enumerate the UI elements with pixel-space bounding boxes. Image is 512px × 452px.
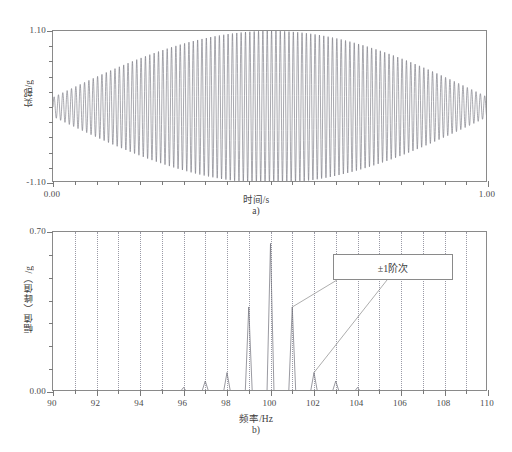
x-major-tick xyxy=(53,181,54,187)
x-minor-tick xyxy=(205,390,206,394)
spectrum-x-axis-title: 频率/Hz xyxy=(239,411,273,425)
x-minor-tick xyxy=(445,181,446,185)
y-minor-tick xyxy=(49,137,53,138)
x-tick-label: 108 xyxy=(436,398,450,408)
x-minor-tick xyxy=(140,181,141,185)
x-minor-tick xyxy=(249,390,250,394)
x-major-tick xyxy=(314,390,315,396)
y-tick-label: 0.00 xyxy=(8,386,46,396)
order-annotation-box: ±1阶次 xyxy=(333,254,453,280)
x-minor-tick xyxy=(358,181,359,185)
x-major-tick xyxy=(401,390,402,396)
waveform-trace xyxy=(53,31,486,181)
panel-a-caption: a) xyxy=(252,206,259,216)
x-tick-label: 104 xyxy=(349,398,363,408)
x-minor-tick xyxy=(184,181,185,185)
y-minor-tick xyxy=(49,369,53,370)
y-tick-label: -1.10 xyxy=(8,177,46,187)
timeseries-clip xyxy=(53,31,486,181)
x-major-tick xyxy=(53,390,54,396)
x-tick-label: 92 xyxy=(91,398,100,408)
x-minor-tick xyxy=(205,181,206,185)
x-major-tick xyxy=(97,390,98,396)
x-minor-tick xyxy=(423,390,424,394)
x-minor-tick xyxy=(162,181,163,185)
y-tick-label: 1.10 xyxy=(8,25,46,35)
x-tick-label: 1.00 xyxy=(479,189,496,199)
figure-root: 1.10-1.100.001.00 实部/g 时间/s a) ±1阶次 0.70… xyxy=(0,0,512,452)
order-annotation-label: ±1阶次 xyxy=(378,260,409,275)
y-minor-tick xyxy=(49,323,53,324)
x-minor-tick xyxy=(271,181,272,185)
x-tick-label: 94 xyxy=(134,398,143,408)
x-minor-tick xyxy=(379,390,380,394)
y-minor-tick xyxy=(49,301,53,302)
x-tick-label: 100 xyxy=(262,398,276,408)
x-tick-label: 0.00 xyxy=(44,189,61,199)
y-minor-tick xyxy=(49,122,53,123)
x-minor-tick xyxy=(118,390,119,394)
panel-a-timeseries: 1.10-1.100.001.00 实部/g 时间/s a) xyxy=(0,0,512,226)
y-major-tick xyxy=(47,31,53,32)
x-minor-tick xyxy=(379,181,380,185)
panel-b-spectrum: ±1阶次 0.700.00909294969810010210410610811… xyxy=(0,226,512,452)
x-major-tick xyxy=(445,390,446,396)
timeseries-y-axis-title: 实部/g xyxy=(22,80,36,107)
x-tick-label: 106 xyxy=(393,398,407,408)
x-tick-label: 110 xyxy=(480,398,494,408)
x-minor-tick xyxy=(401,181,402,185)
y-minor-tick xyxy=(49,46,53,47)
y-minor-tick xyxy=(49,107,53,108)
y-minor-tick xyxy=(49,255,53,256)
x-tick-label: 98 xyxy=(221,398,230,408)
x-major-tick xyxy=(271,390,272,396)
x-major-tick xyxy=(184,390,185,396)
x-major-tick xyxy=(488,390,489,396)
x-major-tick xyxy=(358,390,359,396)
x-major-tick xyxy=(140,390,141,396)
spectrum-y-axis-title: 幅值（峰值）/g xyxy=(22,266,36,333)
y-minor-tick xyxy=(49,346,53,347)
x-minor-tick xyxy=(292,390,293,394)
x-minor-tick xyxy=(75,181,76,185)
x-minor-tick xyxy=(75,390,76,394)
y-minor-tick xyxy=(49,61,53,62)
y-minor-tick xyxy=(49,168,53,169)
x-minor-tick xyxy=(336,181,337,185)
y-minor-tick xyxy=(49,278,53,279)
x-minor-tick xyxy=(314,181,315,185)
x-major-tick xyxy=(227,390,228,396)
x-minor-tick xyxy=(249,181,250,185)
y-tick-label: 0.70 xyxy=(8,226,46,236)
y-minor-tick xyxy=(49,153,53,154)
plot-area-spectrum: ±1阶次 xyxy=(52,231,487,391)
x-tick-label: 96 xyxy=(178,398,187,408)
x-minor-tick xyxy=(162,390,163,394)
x-minor-tick xyxy=(118,181,119,185)
x-minor-tick xyxy=(227,181,228,185)
x-minor-tick xyxy=(466,390,467,394)
x-minor-tick xyxy=(423,181,424,185)
y-major-tick xyxy=(47,232,53,233)
y-minor-tick xyxy=(49,92,53,93)
x-minor-tick xyxy=(336,390,337,394)
x-tick-label: 102 xyxy=(306,398,320,408)
panel-b-caption: b) xyxy=(252,425,260,435)
x-minor-tick xyxy=(97,181,98,185)
x-major-tick xyxy=(488,181,489,187)
y-minor-tick xyxy=(49,77,53,78)
x-minor-tick xyxy=(466,181,467,185)
x-minor-tick xyxy=(292,181,293,185)
timeseries-x-axis-title: 时间/s xyxy=(243,192,269,206)
x-tick-label: 90 xyxy=(47,398,56,408)
plot-area-timeseries xyxy=(52,30,487,182)
